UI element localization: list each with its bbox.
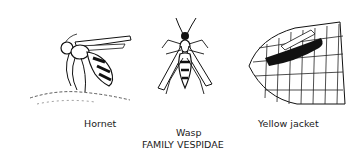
- yellow-jacket-caption: Yellow jacket: [258, 118, 319, 129]
- wasp-caption: Wasp: [176, 127, 202, 138]
- hornet-caption: Hornet: [84, 118, 116, 129]
- yellow-jacket-icon: [245, 18, 350, 108]
- hornet-icon: [25, 30, 135, 110]
- family-label: FAMILY VESPIDAE: [142, 139, 224, 150]
- wasp-icon: [150, 14, 220, 100]
